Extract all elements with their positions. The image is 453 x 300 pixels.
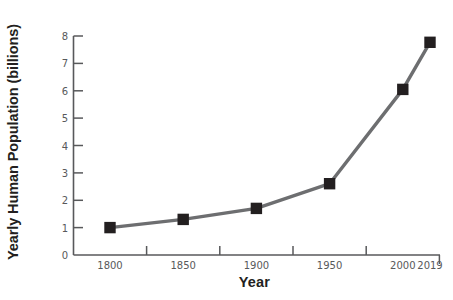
y-tick-label-1: 1 xyxy=(52,222,68,233)
y-tick-label-6: 6 xyxy=(52,85,68,96)
data-point-marker xyxy=(324,178,335,189)
x-tick-label-1950: 1950 xyxy=(317,260,342,271)
y-tick-marks xyxy=(74,36,84,228)
x-tick-label-1850: 1850 xyxy=(170,260,195,271)
data-point-marker xyxy=(104,222,115,233)
x-tick-label-2000: 2000 xyxy=(390,260,415,271)
x-tick-label-1900: 1900 xyxy=(244,260,269,271)
y-tick-label-3: 3 xyxy=(52,167,68,178)
x-axis-title: Year xyxy=(62,274,447,290)
y-tick-label-4: 4 xyxy=(52,140,68,151)
y-tick-label-8: 8 xyxy=(52,31,68,42)
data-point-marker xyxy=(178,214,189,225)
data-point-marker xyxy=(251,203,262,214)
y-tick-label-5: 5 xyxy=(52,113,68,124)
x-tick-label-1800: 1800 xyxy=(97,260,122,271)
data-point-marker xyxy=(424,37,435,48)
data-point-marker xyxy=(397,84,408,95)
population-line-chart: Yearly Human Population (billions) xyxy=(0,0,453,300)
y-tick-label-0: 0 xyxy=(52,250,68,261)
x-tick-label-2019: 2019 xyxy=(417,260,442,271)
y-tick-label-7: 7 xyxy=(52,58,68,69)
y-tick-label-2: 2 xyxy=(52,195,68,206)
data-line xyxy=(110,42,430,227)
